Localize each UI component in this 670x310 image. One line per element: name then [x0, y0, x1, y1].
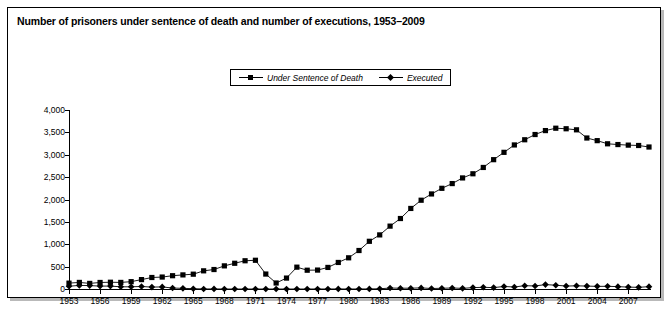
data-point-square-marker: [543, 128, 548, 133]
data-point-square-marker: [253, 258, 258, 263]
data-point-square-marker: [564, 126, 569, 131]
data-point-diamond-marker: [366, 286, 373, 293]
data-point-diamond-marker: [449, 285, 456, 292]
x-axis-tick-mark: [255, 290, 256, 294]
data-point-diamond-marker: [604, 283, 611, 290]
x-axis-tick-label: 1968: [215, 296, 234, 306]
y-axis-tick-label: 2,000: [44, 195, 65, 205]
data-point-square-marker: [636, 143, 641, 148]
data-point-diamond-marker: [428, 285, 435, 292]
x-axis-tick-mark: [473, 290, 474, 294]
x-axis-tick-mark: [318, 290, 319, 294]
y-axis-tick-mark: [65, 222, 69, 223]
data-point-diamond-marker: [169, 285, 176, 292]
data-point-square-marker: [325, 265, 330, 270]
data-point-diamond-marker: [418, 285, 425, 292]
y-axis-tick-label: 1,000: [44, 239, 65, 249]
data-point-square-marker: [149, 275, 154, 280]
data-point-square-marker: [408, 206, 413, 211]
x-axis-tick-label: 1983: [370, 296, 389, 306]
data-point-square-marker: [139, 277, 144, 282]
data-point-square-marker: [398, 216, 403, 221]
data-point-square-marker: [356, 248, 361, 253]
data-point-square-marker: [211, 267, 216, 272]
data-point-diamond-marker: [552, 282, 559, 289]
data-point-square-marker: [242, 258, 247, 263]
data-point-diamond-marker: [273, 286, 280, 293]
data-point-square-marker: [232, 261, 237, 266]
data-point-diamond-marker: [211, 286, 218, 293]
x-axis-tick-mark: [380, 290, 381, 294]
data-point-square-marker: [377, 232, 382, 237]
legend-entry-under-sentence-of-death: Under Sentence of Death: [239, 73, 363, 83]
x-axis-tick-mark: [100, 290, 101, 294]
data-point-diamond-marker: [542, 281, 549, 288]
y-axis-tick-mark: [65, 110, 69, 111]
data-point-diamond-marker: [138, 283, 145, 290]
data-point-diamond-marker: [615, 283, 622, 290]
data-point-square-marker: [626, 143, 631, 148]
x-axis-tick-mark: [193, 290, 194, 294]
data-point-square-marker: [605, 141, 610, 146]
y-axis-tick-label: 3,500: [44, 127, 65, 137]
data-point-square-marker: [294, 265, 299, 270]
x-axis-tick-label: 1974: [277, 296, 296, 306]
data-point-square-marker: [305, 268, 310, 273]
data-point-square-marker: [222, 263, 227, 268]
data-point-diamond-marker: [646, 283, 653, 290]
x-axis-tick-mark: [224, 290, 225, 294]
data-point-square-marker: [387, 224, 392, 229]
data-point-diamond-marker: [521, 282, 528, 289]
data-point-square-marker: [367, 239, 372, 244]
plot-area: [69, 110, 649, 289]
x-axis-tick-label: 2007: [619, 296, 638, 306]
data-point-square-marker: [263, 271, 268, 276]
chart-title: Number of prisoners under sentence of de…: [17, 15, 425, 27]
chart-figure-frame: Number of prisoners under sentence of de…: [7, 7, 661, 298]
data-point-diamond-marker: [594, 283, 601, 290]
data-point-diamond-marker: [262, 286, 269, 293]
y-axis-tick-mark: [65, 200, 69, 201]
x-axis-tick-label: 1953: [60, 296, 79, 306]
data-point-square-marker: [522, 137, 527, 142]
x-axis-tick-mark: [628, 290, 629, 294]
y-axis-tick-label: 2,500: [44, 172, 65, 182]
series-line-under-sentence-of-death: [69, 128, 649, 283]
data-point-diamond-marker: [304, 286, 311, 293]
x-axis-tick-mark: [597, 290, 598, 294]
diamond-marker-icon: [379, 73, 403, 82]
x-axis-tick-label: 1980: [339, 296, 358, 306]
data-point-diamond-marker: [335, 286, 342, 293]
data-point-square-marker: [501, 150, 506, 155]
data-point-square-marker: [481, 165, 486, 170]
x-axis-tick-mark: [411, 290, 412, 294]
legend-entry-executed: Executed: [379, 73, 442, 83]
data-point-square-marker: [450, 181, 455, 186]
chart-legend: Under Sentence of Death Executed: [230, 69, 451, 86]
legend-label-executed: Executed: [407, 73, 442, 83]
y-axis-tick-label: 1,500: [44, 217, 65, 227]
y-axis-tick-label: 500: [51, 262, 65, 272]
data-point-square-marker: [201, 268, 206, 273]
data-series-layer: [69, 110, 649, 289]
data-point-square-marker: [129, 279, 134, 284]
y-axis-tick-label: 4,000: [44, 105, 65, 115]
data-point-diamond-marker: [563, 283, 570, 290]
y-axis-tick-label: 3,000: [44, 150, 65, 160]
data-point-square-marker: [336, 260, 341, 265]
y-axis-labels: 05001,0001,5002,0002,5003,0003,5004,000: [20, 8, 65, 310]
x-axis-tick-label: 1956: [91, 296, 110, 306]
data-point-diamond-marker: [294, 286, 301, 293]
data-point-diamond-marker: [532, 283, 539, 290]
data-point-square-marker: [553, 126, 558, 131]
data-point-diamond-marker: [387, 285, 394, 292]
data-point-diamond-marker: [459, 285, 466, 292]
data-point-square-marker: [491, 157, 496, 162]
x-axis-tick-label: 1986: [401, 296, 420, 306]
x-axis-tick-mark: [287, 290, 288, 294]
data-point-square-marker: [346, 255, 351, 260]
x-axis-tick-mark: [566, 290, 567, 294]
x-axis-tick-label: 2001: [557, 296, 576, 306]
data-point-diamond-marker: [325, 286, 332, 293]
x-axis-tick-mark: [131, 290, 132, 294]
